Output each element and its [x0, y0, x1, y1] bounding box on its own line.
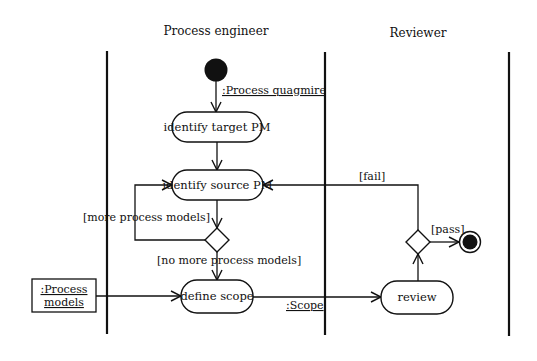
object-node-process-models-line1: :Process	[41, 283, 88, 296]
object-flow-label-scope: :Scope	[286, 299, 324, 312]
final-node-inner	[463, 235, 478, 250]
initial-node	[205, 59, 228, 82]
decision-node-process-models	[205, 228, 229, 252]
guard-no-more-process-models: [no more process models]	[157, 254, 301, 267]
object-flow-label-process-quagmire: :Process quagmire	[222, 84, 326, 97]
action-identify-target-pm-label: identify target PM	[164, 120, 271, 134]
object-node-process-models-line2: models	[44, 296, 84, 309]
action-identify-source-pm-label: identify source PM	[162, 178, 272, 192]
guard-more-process-models: [more process models]	[83, 211, 210, 224]
guard-pass: [pass]	[431, 223, 464, 236]
swimlane-title-reviewer: Reviewer	[390, 26, 447, 40]
swimlane-title-process-engineer: Process engineer	[163, 24, 268, 38]
activity-diagram: Process engineer Reviewer :Process quagm…	[0, 0, 537, 361]
guard-fail: [fail]	[359, 170, 385, 183]
edge-review-fail	[263, 185, 418, 230]
decision-node-review	[406, 230, 430, 254]
action-review-label: review	[397, 290, 436, 304]
action-define-scope-label: define scope	[180, 289, 253, 303]
